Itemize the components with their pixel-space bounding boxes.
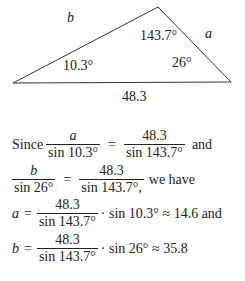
fraction-c-over-sin: 48.3 sin 143.7° xyxy=(37,232,98,265)
equals-sign: = xyxy=(24,241,32,257)
fraction-c-over-sin: 48.3 sin 143.7° xyxy=(37,197,98,230)
result-a-text: · sin 10.3° ≈ 14.6 and xyxy=(101,206,222,222)
since-text: Since xyxy=(12,137,43,153)
numerator: b xyxy=(28,163,39,179)
text-line-3: a = 48.3 sin 143.7° · sin 10.3° ≈ 14.6 a… xyxy=(12,197,222,230)
and-text: and xyxy=(192,137,212,153)
angle-right-label: 26° xyxy=(172,55,192,71)
triangle-shape xyxy=(0,0,245,125)
angle-left-label: 10.3° xyxy=(63,58,93,74)
numerator: a xyxy=(68,128,79,144)
numerator: 48.3 xyxy=(140,128,169,144)
text-line-1: Since a sin 10.3° = 48.3 sin 143.7° and xyxy=(12,128,212,161)
fraction-c-over-sin: 48.3 sin 143.7°, xyxy=(79,163,143,196)
denominator: sin 143.7°, xyxy=(79,179,143,196)
result-b-text: · sin 26° ≈ 35.8 xyxy=(101,241,188,257)
lhs-b: b xyxy=(12,241,19,257)
triangle-figure: b 143.7° a 10.3° 26° 48.3 xyxy=(0,0,245,125)
text-line-4: b = 48.3 sin 143.7° · sin 26° ≈ 35.8 xyxy=(12,232,188,265)
equals-sign: = xyxy=(63,172,71,188)
equals-sign: = xyxy=(24,206,32,222)
fraction-a-over-sin: a sin 10.3° xyxy=(46,128,100,161)
numerator: 48.3 xyxy=(53,232,82,248)
equals-sign: = xyxy=(108,137,116,153)
angle-top-label: 143.7° xyxy=(140,28,177,44)
denominator: sin 143.7° xyxy=(124,144,185,161)
denominator: sin 143.7° xyxy=(37,213,98,230)
fraction-c-over-sin: 48.3 sin 143.7° xyxy=(124,128,185,161)
fraction-b-over-sin: b sin 26° xyxy=(12,163,55,196)
denominator: sin 143.7° xyxy=(37,248,98,265)
numerator: 48.3 xyxy=(97,163,126,179)
denominator: sin 26° xyxy=(12,179,55,196)
denominator: sin 10.3° xyxy=(46,144,100,161)
lhs-a: a xyxy=(12,206,19,222)
side-a-label: a xyxy=(205,26,212,42)
side-b-label: b xyxy=(67,10,74,26)
side-c-label: 48.3 xyxy=(122,89,147,105)
numerator: 48.3 xyxy=(53,197,82,213)
text-line-2: b sin 26° = 48.3 sin 143.7°, we have xyxy=(12,163,195,196)
we-have-text: we have xyxy=(149,172,195,188)
